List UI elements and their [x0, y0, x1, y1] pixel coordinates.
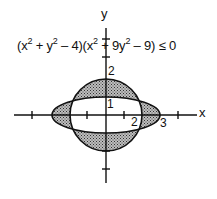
eq-part: – 4)(x [58, 38, 93, 53]
eq-part: + y [32, 38, 53, 53]
inequality-equation: (x2 + y2 – 4)(x2 + 9y2 – 9) ≤ 0 [17, 38, 176, 53]
y-tick-label-2: 2 [108, 64, 115, 78]
eq-part: – 9) ≤ 0 [130, 38, 176, 53]
eq-part: + 9y [98, 38, 126, 53]
x-tick-label-3: 3 [160, 116, 167, 130]
x-tick-label-2: 2 [131, 115, 138, 129]
y-axis-label: y [101, 6, 108, 21]
eq-part: (x [17, 38, 27, 53]
x-axis-label: x [199, 105, 206, 120]
y-tick-label-1: 1 [107, 97, 114, 111]
